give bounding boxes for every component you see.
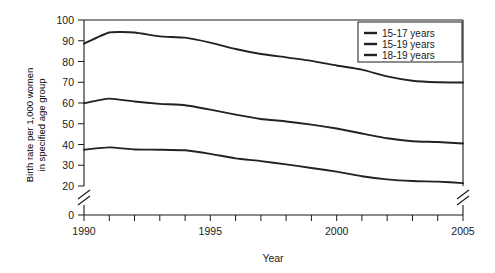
y-tick-label-50: 50 — [62, 118, 74, 130]
y-axis-title-line2: in specified age group — [36, 79, 47, 172]
y-tick-label-40: 40 — [62, 139, 74, 151]
y-axis-break-mark — [78, 190, 90, 205]
y-tick-label-20: 20 — [62, 180, 74, 192]
legend-label-15-17: 15-17 years — [382, 28, 435, 39]
x-tick-label-2000: 2000 — [325, 225, 349, 237]
x-tick-label-1995: 1995 — [199, 225, 223, 237]
y-tick-label-70: 70 — [62, 76, 74, 88]
y-tick-label-60: 60 — [62, 97, 74, 109]
x-axis-tick-labels: 1990 1995 2000 2005 — [72, 225, 475, 237]
y-tick-label-0: 0 — [68, 209, 74, 221]
y-tick-label-90: 90 — [62, 35, 74, 47]
legend-label-18-19: 18-19 years — [382, 50, 435, 61]
y-tick-label-100: 100 — [56, 14, 74, 26]
y-axis-title-line1: Birth rate per 1,000 women — [24, 68, 35, 183]
x-axis-ticks — [84, 215, 463, 221]
y-tick-label-30: 30 — [62, 159, 74, 171]
y-axis-title: Birth rate per 1,000 women in specified … — [24, 68, 47, 183]
y-axis-ticks: 100 90 80 70 60 50 40 30 20 0 — [56, 14, 84, 221]
chart-legend: 15-17 years 15-19 years 18-19 years — [358, 22, 462, 62]
line-chart: Birth rate per 1,000 women in specified … — [0, 0, 495, 273]
chart-figure: Birth rate per 1,000 women in specified … — [0, 0, 495, 273]
right-axis-break-mark — [457, 190, 469, 205]
y-tick-label-80: 80 — [62, 56, 74, 68]
x-axis-title: Year — [262, 252, 284, 264]
legend-label-15-19: 15-19 years — [382, 39, 435, 50]
series-line-15-19-years — [84, 99, 463, 144]
series-line-15-17-years — [84, 147, 463, 183]
x-tick-label-2005: 2005 — [451, 225, 475, 237]
x-tick-label-1990: 1990 — [72, 225, 96, 237]
